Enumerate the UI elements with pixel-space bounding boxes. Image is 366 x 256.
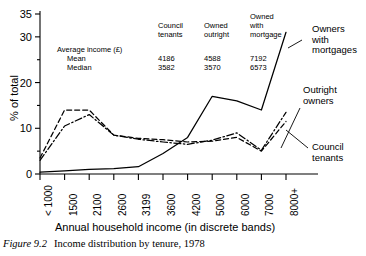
median-owned-with-mortgage: 6573 xyxy=(250,63,296,72)
x-tick-label: 5000 xyxy=(216,194,226,216)
header-line: Owned xyxy=(204,21,228,30)
y-tick-label: 30 xyxy=(6,32,32,42)
x-tick-label: < 1000 xyxy=(44,185,54,216)
table-row: Mean 4186 4588 7192 xyxy=(57,54,296,63)
y-tick-label: 35 xyxy=(6,9,32,19)
x-tick-label: 6000 xyxy=(241,194,251,216)
header-line: with xyxy=(250,21,263,30)
header-line: Council xyxy=(158,21,183,30)
x-tick-label: 8000+ xyxy=(290,188,300,216)
annotation-owners-with-mortgages: Owners with mortgages xyxy=(312,24,357,56)
x-tick-label: 7000 xyxy=(265,194,275,216)
leader-council-tenants xyxy=(286,130,308,148)
y-tick-label: 10 xyxy=(6,123,32,133)
row-label-median: Median xyxy=(57,63,158,72)
average-income-label: Average income (£) xyxy=(57,45,158,54)
x-tick-label: 4200 xyxy=(192,194,202,216)
table-corner-cell xyxy=(57,12,158,40)
annotation-line: mortgages xyxy=(312,44,357,55)
annotation-line: tenants xyxy=(312,152,343,163)
x-tick-label: 2100 xyxy=(93,194,103,216)
header-line: mortgage xyxy=(250,30,282,39)
figure-caption: Figure 9.2Income distribution by tenure,… xyxy=(3,238,205,249)
table-row: Median 3582 3570 6573 xyxy=(57,63,296,72)
header-line: tenants xyxy=(158,30,183,39)
column-header-owned-with-mortgage: Owned with mortgage xyxy=(250,12,296,40)
annotation-line: Council xyxy=(312,141,344,152)
row-label-mean: Mean xyxy=(57,54,158,63)
y-tick-label: 0 xyxy=(6,169,32,179)
mean-council-tenants: 4186 xyxy=(158,54,204,63)
x-tick-label: 3600 xyxy=(167,194,177,216)
figure-caption-text: Income distribution by tenure, 1978 xyxy=(54,238,205,249)
x-tick-label: 1500 xyxy=(69,194,79,216)
mean-owned-with-mortgage: 7192 xyxy=(250,54,296,63)
x-tick-label: 2600 xyxy=(118,194,128,216)
median-council-tenants: 3582 xyxy=(158,63,204,72)
mean-owned-outright: 4588 xyxy=(204,54,250,63)
x-axis-title: Annual household income (in discrete ban… xyxy=(0,221,330,233)
header-line: outright xyxy=(204,30,229,39)
annotation-line: Outright xyxy=(303,84,337,95)
figure-number: Figure 9.2 xyxy=(3,238,47,249)
figure-container: % of total 010203035 < 10001500210026003… xyxy=(0,0,366,256)
annotation-council-tenants: Council tenants xyxy=(312,142,344,163)
column-header-council-tenants: Council tenants xyxy=(158,12,204,40)
header-line: Owned xyxy=(250,12,274,21)
leader-outright-owners xyxy=(281,108,300,148)
median-owned-outright: 3570 xyxy=(204,63,250,72)
table-title-row: Average income (£) xyxy=(57,45,296,54)
column-header-owned-outright: Owned outright xyxy=(204,12,250,40)
y-tick-label: 20 xyxy=(6,78,32,88)
average-income-table: Council tenants Owned outright Owned wit… xyxy=(57,12,296,72)
annotation-outright-owners: Outright owners xyxy=(303,85,337,106)
annotation-line: with xyxy=(312,34,329,45)
series-line-council-tenants xyxy=(40,110,286,158)
annotation-line: owners xyxy=(303,95,334,106)
table-header-row: Council tenants Owned outright Owned wit… xyxy=(57,12,296,40)
annotation-line: Owners xyxy=(312,23,345,34)
x-tick-label: 3199 xyxy=(142,194,152,216)
